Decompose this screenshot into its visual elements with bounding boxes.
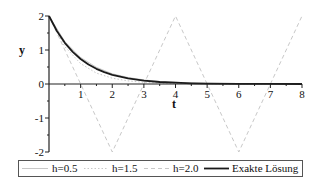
y-axis-label: y <box>19 43 25 57</box>
x-tick-label: 7 <box>268 88 274 100</box>
series-line-exakte-l-sung <box>49 16 302 84</box>
legend-label-h15: h=1.5 <box>112 162 138 174</box>
series-line-h-0-5 <box>49 16 302 84</box>
y-ticks: -2-1012 <box>35 10 49 158</box>
x-axis-label: t <box>172 97 176 111</box>
x-tick-label: 8 <box>299 88 305 100</box>
x-tick-label: 5 <box>204 88 210 100</box>
legend-label-exact: Exakte Lösung <box>232 162 299 174</box>
y-tick-label: 0 <box>39 78 45 90</box>
x-tick-label: 2 <box>110 88 116 100</box>
legend-label-h20: h=2.0 <box>173 162 199 174</box>
legend-label-h05: h=0.5 <box>52 162 78 174</box>
y-tick-label: 1 <box>39 44 45 56</box>
y-tick-label: -1 <box>35 112 44 124</box>
x-ticks: 12345678 <box>65 84 305 100</box>
series-line-h-1-5 <box>49 16 302 84</box>
x-tick-label: 3 <box>141 88 147 100</box>
x-tick-label: 1 <box>78 88 84 100</box>
x-tick-label: 6 <box>236 88 242 100</box>
y-tick-label: -2 <box>35 146 44 158</box>
legend: h=0.5 h=1.5 h=2.0 Exakte Lösung <box>19 161 303 177</box>
y-tick-label: 2 <box>39 10 45 22</box>
chart: 12345678 -2-1012 t y h=0.5 h=1.5 h=2.0 E… <box>0 0 320 189</box>
